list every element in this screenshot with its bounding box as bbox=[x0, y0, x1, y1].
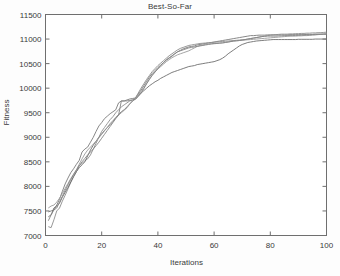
x-tick-label: 100 bbox=[320, 241, 334, 250]
chart-figure: Best-So-Far Fitness Iterations 700075008… bbox=[0, 0, 340, 276]
y-tick-label: 8500 bbox=[24, 158, 42, 167]
x-tick-label: 80 bbox=[266, 241, 275, 250]
y-tick-label: 11000 bbox=[20, 35, 42, 44]
x-tick-label: 60 bbox=[210, 241, 219, 250]
y-tick-label: 10000 bbox=[19, 84, 42, 93]
y-tick-label: 7500 bbox=[24, 207, 42, 216]
y-tick-label: 9000 bbox=[24, 133, 42, 142]
y-tick-label: 11500 bbox=[20, 11, 42, 20]
y-tick-label: 8000 bbox=[24, 182, 42, 191]
y-tick-label: 7000 bbox=[24, 232, 42, 241]
y-tick-label: 9500 bbox=[24, 109, 42, 118]
y-tick-label: 10500 bbox=[19, 60, 42, 69]
x-tick-label: 0 bbox=[43, 241, 48, 250]
x-tick-label: 40 bbox=[153, 241, 162, 250]
x-tick-label: 20 bbox=[97, 241, 106, 250]
plot-area: 7000750080008500900095001000010500110001… bbox=[0, 0, 340, 276]
